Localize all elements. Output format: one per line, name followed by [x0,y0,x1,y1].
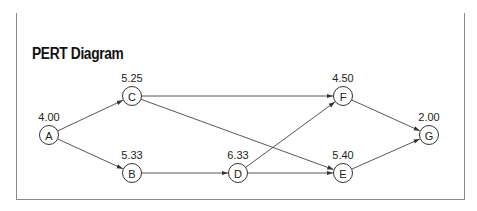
edge-f-g [352,100,420,131]
node-b: B5.33 [121,149,142,183]
edge-d-f [246,102,335,167]
node-f: F4.50 [332,72,353,106]
node-label: C [128,91,136,103]
edges-group [58,96,420,173]
nodes-group: A4.00B5.33C5.25D6.33E5.40F4.50G2.00 [38,72,439,183]
node-label: A [45,130,53,142]
edge-a-c [58,100,123,131]
pert-diagram: A4.00B5.33C5.25D6.33E5.40F4.50G2.00 [0,0,477,211]
node-value: 4.50 [332,72,353,84]
node-a: A4.00 [38,111,59,145]
node-label: F [340,91,347,103]
node-c: C5.25 [121,72,142,106]
node-value: 2.00 [418,111,439,123]
node-value: 6.33 [227,149,248,161]
node-value: 5.25 [121,72,142,84]
node-label: B [128,168,135,180]
node-label: G [425,130,434,142]
edge-e-g [352,139,420,169]
node-value: 5.40 [332,149,353,161]
node-label: E [339,168,346,180]
node-value: 4.00 [38,111,59,123]
node-label: D [234,168,242,180]
edge-a-b [58,139,123,169]
node-e: E5.40 [332,149,353,183]
node-g: G2.00 [418,111,439,145]
node-d: D6.33 [227,149,248,183]
node-value: 5.33 [121,149,142,161]
